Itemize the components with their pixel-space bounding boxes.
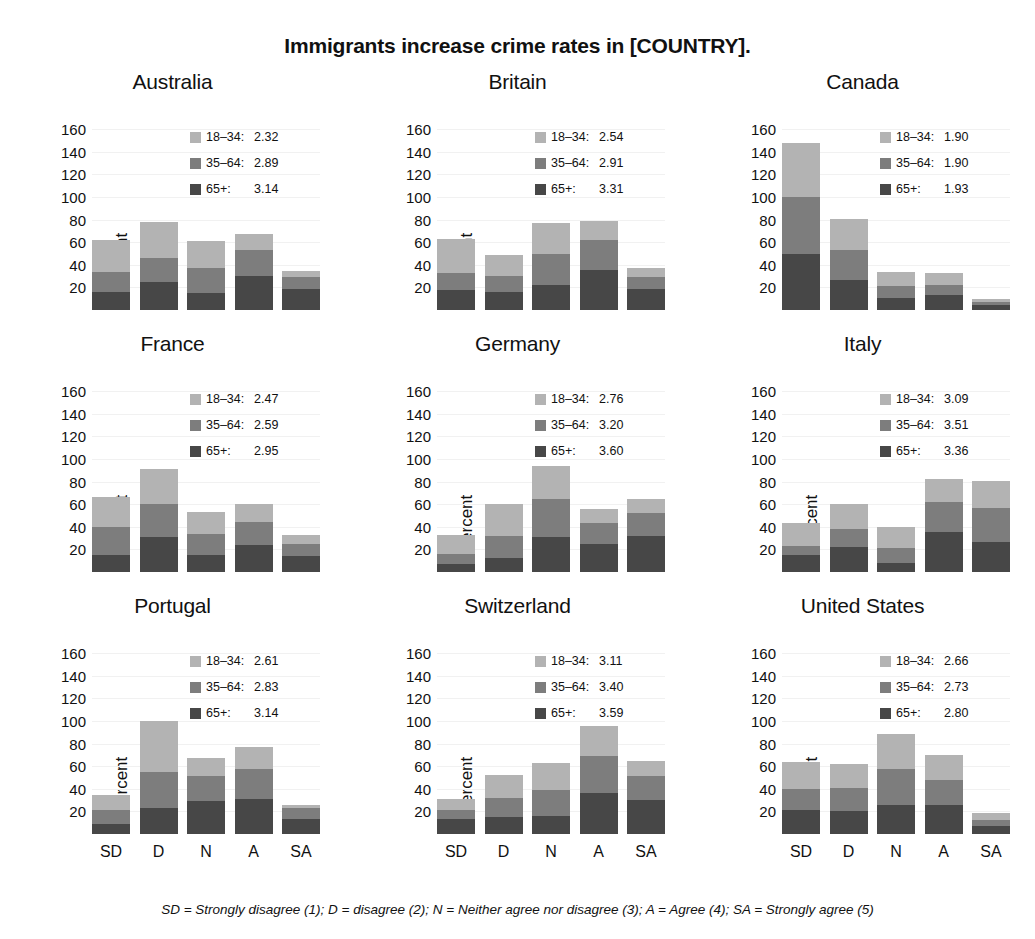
stacked-bar[interactable] bbox=[140, 222, 178, 310]
legend-label: 65+: bbox=[896, 444, 940, 458]
legend-item-65+[interactable]: 65+:1.93 bbox=[880, 176, 1008, 202]
stacked-bar[interactable] bbox=[235, 504, 273, 572]
legend-label: 35–64: bbox=[896, 156, 940, 170]
legend-item-18-34[interactable]: 18–34:2.76 bbox=[535, 386, 663, 412]
bar-segment-35-64 bbox=[485, 536, 523, 559]
stacked-bar[interactable] bbox=[877, 527, 915, 572]
stacked-bar[interactable] bbox=[830, 764, 868, 834]
stacked-bar[interactable] bbox=[92, 497, 130, 572]
stacked-bar[interactable] bbox=[532, 466, 570, 572]
stacked-bar[interactable] bbox=[580, 221, 618, 310]
legend-label: 65+: bbox=[206, 182, 250, 196]
legend-item-18-34[interactable]: 18–34:2.32 bbox=[190, 124, 318, 150]
stacked-bar[interactable] bbox=[972, 299, 1010, 310]
legend-item-65+[interactable]: 65+:3.36 bbox=[880, 438, 1008, 464]
stacked-bar[interactable] bbox=[877, 734, 915, 835]
stacked-bar[interactable] bbox=[92, 795, 130, 835]
stacked-bar[interactable] bbox=[782, 762, 820, 834]
stacked-bar[interactable] bbox=[782, 523, 820, 572]
legend-item-18-34[interactable]: 18–34:2.66 bbox=[880, 648, 1008, 674]
stacked-bar[interactable] bbox=[830, 504, 868, 572]
bar-segment-65+ bbox=[830, 547, 868, 572]
stacked-bar[interactable] bbox=[187, 512, 225, 572]
y-axis-tick: 160 bbox=[61, 383, 86, 400]
legend-item-65+[interactable]: 65+:2.95 bbox=[190, 438, 318, 464]
legend-item-18-34[interactable]: 18–34:2.61 bbox=[190, 648, 318, 674]
legend-item-35-64[interactable]: 35–64:3.40 bbox=[535, 674, 663, 700]
stacked-bar[interactable] bbox=[972, 813, 1010, 834]
legend-swatch-35-64 bbox=[535, 682, 546, 693]
x-axis-tick: D bbox=[485, 843, 523, 861]
stacked-bar[interactable] bbox=[437, 535, 475, 572]
legend-label: 18–34: bbox=[896, 654, 940, 668]
legend-item-65+[interactable]: 65+:3.59 bbox=[535, 700, 663, 726]
y-axis-tick: 140 bbox=[406, 667, 431, 684]
stacked-bar[interactable] bbox=[485, 255, 523, 310]
stacked-bar[interactable] bbox=[782, 143, 820, 310]
y-axis-tick: 160 bbox=[61, 645, 86, 662]
legend-item-65+[interactable]: 65+:3.14 bbox=[190, 176, 318, 202]
legend-item-35-64[interactable]: 35–64:2.59 bbox=[190, 412, 318, 438]
stacked-bar[interactable] bbox=[92, 240, 130, 310]
legend-item-65+[interactable]: 65+:2.80 bbox=[880, 700, 1008, 726]
bar-segment-35-64 bbox=[235, 522, 273, 545]
stacked-bar[interactable] bbox=[437, 239, 475, 310]
bar-segment-35-64 bbox=[140, 772, 178, 808]
figure-title: Immigrants increase crime rates in [COUN… bbox=[0, 34, 1035, 58]
stacked-bar[interactable] bbox=[580, 509, 618, 572]
stacked-bar[interactable] bbox=[877, 272, 915, 310]
legend-item-35-64[interactable]: 35–64:2.91 bbox=[535, 150, 663, 176]
stacked-bar[interactable] bbox=[830, 219, 868, 310]
stacked-bar[interactable] bbox=[235, 747, 273, 834]
y-axis-tick: 140 bbox=[61, 405, 86, 422]
legend-item-18-34[interactable]: 18–34:1.90 bbox=[880, 124, 1008, 150]
stacked-bar[interactable] bbox=[925, 755, 963, 834]
legend-swatch-35-64 bbox=[880, 158, 891, 169]
legend-item-65+[interactable]: 65+:3.60 bbox=[535, 438, 663, 464]
legend-label: 18–34: bbox=[206, 130, 250, 144]
stacked-bar[interactable] bbox=[580, 726, 618, 834]
stacked-bar[interactable] bbox=[282, 805, 320, 834]
legend-item-18-34[interactable]: 18–34:3.11 bbox=[535, 648, 663, 674]
legend-item-18-34[interactable]: 18–34:2.47 bbox=[190, 386, 318, 412]
legend-label: 35–64: bbox=[551, 680, 595, 694]
stacked-bar[interactable] bbox=[140, 469, 178, 572]
legend-item-35-64[interactable]: 35–64:3.20 bbox=[535, 412, 663, 438]
legend-mean-value: 2.47 bbox=[254, 392, 278, 406]
legend-item-18-34[interactable]: 18–34:3.09 bbox=[880, 386, 1008, 412]
stacked-bar[interactable] bbox=[532, 223, 570, 310]
legend-label: 65+: bbox=[896, 706, 940, 720]
panel-switzerland: SwitzerlandPercent20406080100120140160SD… bbox=[345, 594, 690, 860]
stacked-bar[interactable] bbox=[627, 499, 665, 572]
bar-segment-18-34 bbox=[282, 271, 320, 278]
legend-item-35-64[interactable]: 35–64:2.83 bbox=[190, 674, 318, 700]
legend-item-65+[interactable]: 65+:3.31 bbox=[535, 176, 663, 202]
legend-swatch-18-34 bbox=[880, 656, 891, 667]
legend-item-18-34[interactable]: 18–34:2.54 bbox=[535, 124, 663, 150]
bar-segment-18-34 bbox=[235, 504, 273, 522]
legend-item-35-64[interactable]: 35–64:2.89 bbox=[190, 150, 318, 176]
bar-segment-35-64 bbox=[92, 810, 130, 824]
y-axis-tick: 100 bbox=[406, 451, 431, 468]
stacked-bar[interactable] bbox=[235, 234, 273, 310]
stacked-bar[interactable] bbox=[532, 763, 570, 834]
stacked-bar[interactable] bbox=[627, 268, 665, 310]
stacked-bar[interactable] bbox=[140, 721, 178, 834]
legend-item-35-64[interactable]: 35–64:2.73 bbox=[880, 674, 1008, 700]
stacked-bar[interactable] bbox=[437, 799, 475, 834]
stacked-bar[interactable] bbox=[627, 761, 665, 834]
legend-item-35-64[interactable]: 35–64:3.51 bbox=[880, 412, 1008, 438]
stacked-bar[interactable] bbox=[187, 241, 225, 310]
stacked-bar[interactable] bbox=[925, 273, 963, 310]
stacked-bar[interactable] bbox=[972, 481, 1010, 572]
legend-swatch-18-34 bbox=[535, 656, 546, 667]
stacked-bar[interactable] bbox=[485, 504, 523, 572]
stacked-bar[interactable] bbox=[282, 535, 320, 572]
stacked-bar[interactable] bbox=[282, 271, 320, 311]
legend-item-35-64[interactable]: 35–64:1.90 bbox=[880, 150, 1008, 176]
legend-item-65+[interactable]: 65+:3.14 bbox=[190, 700, 318, 726]
stacked-bar[interactable] bbox=[485, 775, 523, 834]
stacked-bar[interactable] bbox=[187, 758, 225, 834]
legend-swatch-65+ bbox=[880, 708, 891, 719]
stacked-bar[interactable] bbox=[925, 479, 963, 572]
